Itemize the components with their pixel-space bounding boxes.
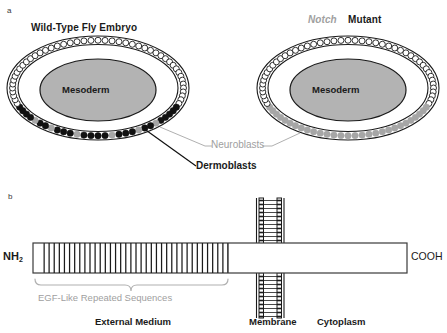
dorsal-cell [129,41,135,47]
dorsal-cell [61,41,67,47]
panel-letter-b: b [8,192,12,201]
ventral-cell [67,130,73,136]
dorsal-cell [345,37,351,43]
ventral-cell [317,130,323,136]
dorsal-cell [102,37,108,43]
dorsal-cell [311,41,317,47]
dorsal-cell [48,45,54,51]
ventral-cell [298,125,304,131]
dorsal-cell [136,43,142,49]
leader-line-dermoblasts [143,128,196,166]
dorsal-cell [142,45,148,51]
ventral-cell [102,132,108,138]
region-label-membrane: Membrane [249,316,297,327]
egf-bracket [35,279,228,291]
dorsal-cell [386,43,392,49]
region-label-cytoplasm: Cytoplasm [317,316,366,327]
dorsal-cell [42,47,48,53]
dorsal-cell [352,37,358,43]
ventral-cell [345,133,351,139]
ventral-cell [60,129,66,135]
panel-letter-a: a [7,6,11,15]
ventral-cell [109,132,115,138]
ventral-cell [385,127,391,133]
protein-backbone-bar [33,243,407,273]
ventral-cell [147,122,153,128]
ventral-cell [123,130,129,136]
ventral-cell [88,132,94,138]
ventral-cell [379,129,385,135]
dorsal-cell [304,43,310,49]
dorsal-cell [88,37,94,43]
region-label-external-medium: External Medium [95,316,171,327]
ventral-cell [310,129,316,135]
mutant-title: Mutant [348,14,381,25]
ventral-cell [373,130,379,136]
figure-root: a b Wild-Type Fly Embryo Notch Mutant Me… [0,0,447,333]
dorsal-cell [338,37,344,43]
membrane-bilayer-upper [257,198,285,246]
ventral-cell [129,129,135,135]
leader-line-neuroblasts-left [160,127,205,146]
dorsal-cell [359,38,365,44]
ventral-cell [324,131,330,137]
dorsal-cell [392,45,398,51]
wild-type-embryo-title: Wild-Type Fly Embryo [31,22,137,33]
ventral-cell [352,132,358,138]
ventral-cell [331,132,337,138]
ventral-cell [366,131,372,137]
dorsal-cell [109,38,115,44]
dorsal-cell [123,40,129,46]
ventral-cell [359,132,365,138]
membrane-bilayer-lower [257,270,285,318]
n-terminus-label: NH2 [3,250,23,263]
ventral-cell [48,125,54,131]
mesoderm-label-left: Mesoderm [62,84,110,95]
dorsal-cell [74,39,80,45]
dorsal-cell [95,37,101,43]
c-terminus-label: COOH [411,250,443,262]
leader-line-neuroblasts-right [272,133,300,146]
neuroblasts-callout-label: Neuroblasts [211,139,264,150]
ventral-cell [338,132,344,138]
mesoderm-label-right: Mesoderm [312,84,360,95]
ventral-cell [74,131,80,137]
dorsal-cell [324,39,330,45]
ventral-cell [95,133,101,139]
dorsal-cell [116,39,122,45]
ventral-cell [304,127,310,133]
ventral-cell [392,125,398,131]
egf-bracket-label: EGF-Like Repeated Sequences [38,292,172,303]
dorsal-cell [331,38,337,44]
notch-gene-name: Notch [308,14,337,25]
dorsal-cell [379,41,385,47]
ventral-cell [135,127,141,133]
ventral-cell [81,132,87,138]
dorsal-cell [81,38,87,44]
dorsal-cell [54,43,60,49]
dorsal-cell [317,40,323,46]
ventral-cell [397,122,403,128]
ventral-cell [54,127,60,133]
ventral-cell [116,131,122,137]
dorsal-cell [67,40,73,46]
dorsal-cell [292,47,298,53]
dorsal-cell [366,39,372,45]
dorsal-cell [298,45,304,51]
dermoblasts-callout-label: Dermoblasts [196,160,257,171]
dorsal-cell [373,40,379,46]
